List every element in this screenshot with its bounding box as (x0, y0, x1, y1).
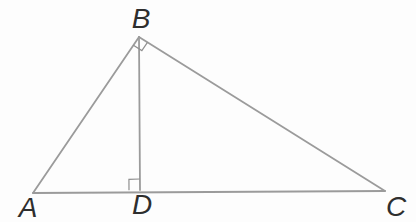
base-ac (33, 191, 385, 193)
side-bc (139, 37, 385, 191)
vertex-label-d: D (132, 189, 152, 220)
vertex-label-b: B (132, 3, 151, 34)
vertex-label-c: C (386, 191, 407, 222)
side-ab (33, 37, 139, 193)
geometry-diagram: ABCD (0, 0, 416, 222)
vertex-label-a: A (17, 192, 38, 222)
altitude-bd (139, 37, 140, 190)
triangle-figure: ABCD (0, 0, 416, 222)
